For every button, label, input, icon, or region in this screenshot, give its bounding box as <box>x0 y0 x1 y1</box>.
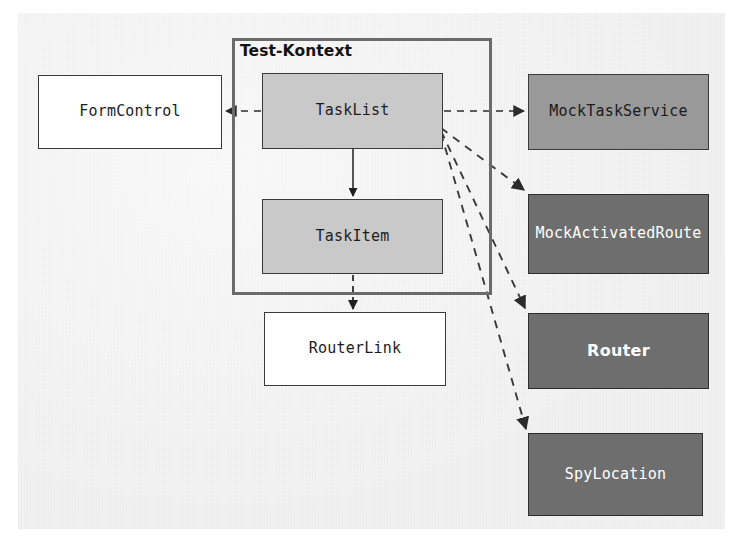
test-context-title: Test-Kontext <box>240 42 352 60</box>
node-task-list-label: TaskList <box>316 102 390 119</box>
node-router[interactable]: Router <box>528 313 709 389</box>
node-task-item-label: TaskItem <box>316 228 390 245</box>
node-router-link-label: RouterLink <box>309 340 401 357</box>
diagram-page: Test-Kontext FormControl TaskList TaskIt… <box>0 0 743 545</box>
node-task-list[interactable]: TaskList <box>262 73 443 149</box>
node-spy-location-label: SpyLocation <box>565 466 667 483</box>
node-router-link[interactable]: RouterLink <box>264 312 446 386</box>
node-mock-activated-route-label: MockActivatedRoute <box>535 225 701 242</box>
node-spy-location[interactable]: SpyLocation <box>528 433 703 516</box>
node-form-control[interactable]: FormControl <box>38 75 222 149</box>
node-mock-activated-route[interactable]: MockActivatedRoute <box>528 194 709 274</box>
node-form-control-label: FormControl <box>79 103 181 120</box>
node-task-item[interactable]: TaskItem <box>262 199 443 274</box>
node-mock-task-service-label: MockTaskService <box>549 103 687 120</box>
node-router-label: Router <box>587 342 650 360</box>
node-mock-task-service[interactable]: MockTaskService <box>528 74 709 150</box>
